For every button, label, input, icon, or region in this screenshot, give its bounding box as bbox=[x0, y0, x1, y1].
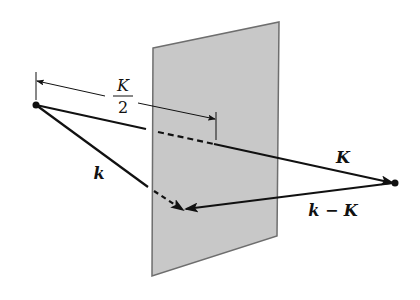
label-half-K-denominator: 2 bbox=[118, 98, 128, 117]
label-K: K bbox=[335, 148, 351, 167]
bragg-plane bbox=[152, 22, 279, 276]
label-k: k bbox=[93, 164, 104, 183]
label-k-minus-K: k − K bbox=[308, 201, 359, 220]
bragg-plane-diagram: K 2 K k k − K bbox=[0, 0, 420, 300]
dimension-arrow-left bbox=[37, 81, 105, 96]
label-half-K-numerator: K bbox=[116, 76, 130, 95]
origin-point bbox=[33, 102, 40, 109]
endpoint-K bbox=[392, 180, 399, 187]
